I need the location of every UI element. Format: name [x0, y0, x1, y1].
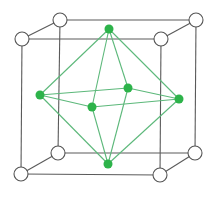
- corner-atom-FTL: [15, 32, 29, 46]
- octa-edge-RIGHT-FRONT: [92, 99, 179, 107]
- cube-edge-FBR-FBL: [21, 174, 160, 175]
- corner-atom-FBR: [153, 168, 167, 182]
- corner-atom-BBR: [188, 146, 202, 160]
- corner-atom-FBL: [14, 167, 28, 181]
- cube-edge-BTR-BBR: [195, 20, 196, 153]
- corner-atom-BTR: [189, 13, 203, 27]
- octahedral-site-diagram: [0, 0, 212, 198]
- diagram-canvas: [0, 0, 212, 198]
- octa-edge-BOT-RIGHT: [108, 99, 179, 164]
- octa-edge-FRONT-LEFT: [40, 95, 92, 107]
- corner-atom-BTL: [53, 13, 67, 27]
- octa-edge-BACK-RIGHT: [128, 88, 179, 99]
- cube-edge-FBL-FTL: [21, 39, 22, 174]
- octahedron-edges: [40, 29, 179, 164]
- corner-atom-FTR: [154, 32, 168, 46]
- octa-edge-LEFT-BACK: [40, 88, 128, 95]
- cube-edge-BBL-BTL: [58, 20, 60, 153]
- octa-atom-front: [88, 103, 97, 112]
- octa-edge-TOP-FRONT: [92, 29, 109, 107]
- octa-atom-top: [105, 25, 114, 34]
- octa-atom-bot: [104, 160, 113, 169]
- octa-atom-back: [124, 84, 133, 93]
- corner-atom-BBL: [51, 146, 65, 160]
- octa-atom-right: [175, 95, 184, 104]
- cube-edge-FTR-FBR: [160, 39, 161, 175]
- octa-atom-left: [36, 91, 45, 100]
